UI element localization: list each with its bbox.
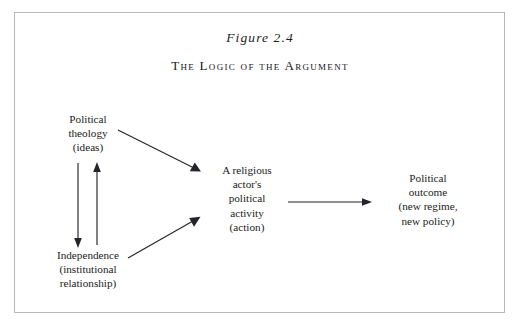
node-line: theology [28,126,148,140]
node-line: Independence [20,248,156,262]
node-line: political [192,191,302,205]
node-line: (institutional [20,262,156,276]
node-line: A religious [192,163,302,177]
node-line: outcome [372,185,484,199]
figure-container: Figure 2.4 The Logic of the Argument [0,0,520,328]
node-political-outcome: Political outcome (new regime, new polic… [372,171,484,228]
node-line: (new regime, [372,199,484,213]
node-line: relationship) [20,276,156,290]
arrow-theology-to-independence [74,163,82,248]
node-independence: Independence (institutional relationship… [20,248,156,291]
node-line: Political [372,171,484,185]
node-political-theology: Political theology (ideas) [28,112,148,155]
node-religious-activity: A religious actor's political activity (… [192,163,302,234]
node-line: (action) [192,220,302,234]
arrow-independence-to-theology [93,162,101,245]
node-line: (ideas) [28,140,148,154]
node-line: Political [28,112,148,126]
node-line: activity [192,206,302,220]
node-line: actor's [192,177,302,191]
node-line: new policy) [372,214,484,228]
